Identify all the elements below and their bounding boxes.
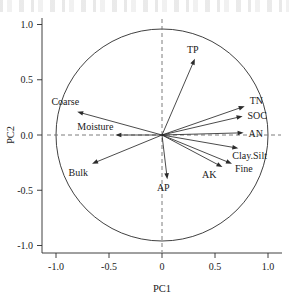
loading-vector-label-ap: AP — [157, 182, 170, 193]
plot-canvas: TPCoarseTNSOCANMoistureClay.SiltBulkAKFi… — [0, 0, 289, 301]
x-axis-title: PC1 — [153, 283, 171, 294]
y-tick-label: 0.0 — [21, 130, 34, 141]
loading-vector-line — [162, 117, 238, 135]
loading-vector-arrowhead — [238, 106, 244, 110]
loading-vector-arrowhead — [236, 115, 242, 119]
x-tick-label: -0.5 — [101, 261, 117, 272]
x-tick-label: 0.5 — [209, 261, 222, 272]
loading-vector-arrowhead — [190, 59, 194, 65]
loading-vector-line — [162, 135, 167, 175]
loading-vector-arrowhead — [92, 159, 98, 163]
y-tick-label: -0.5 — [17, 185, 33, 196]
loading-vector-label-ak: AK — [202, 169, 217, 180]
y-tick-label: -1.0 — [17, 240, 33, 251]
y-tick-label: 0.5 — [21, 74, 34, 85]
y-tick-label: 1.0 — [21, 19, 34, 30]
x-tick-label: -1.0 — [48, 261, 64, 272]
loading-vector-line — [96, 135, 162, 162]
loading-vector-label-an: AN — [249, 128, 263, 139]
loading-vectors — [77, 59, 244, 179]
loading-vector-label-coarse: Coarse — [51, 96, 79, 107]
loading-vector-arrowhead — [115, 133, 121, 138]
y-axis-ticks: 1.00.50.0-0.5-1.0 — [17, 19, 42, 251]
loading-vector-label-tp: TP — [187, 44, 199, 55]
loading-vector-label-moisture: Moisture — [77, 121, 114, 132]
loading-vector-label-tn: TN — [250, 95, 263, 106]
loading-vector-label-clay-silt: Clay.Silt — [232, 150, 267, 161]
x-axis-ticks: -1.0-0.500.51.0 — [48, 253, 274, 272]
loading-vector-line — [162, 135, 228, 162]
loading-vector-line — [162, 135, 234, 147]
loading-vector-arrowhead — [164, 173, 169, 179]
loading-vector-labels: TPCoarseTNSOCANMoistureClay.SiltBulkAKFi… — [51, 44, 267, 193]
loading-vector-arrowhead — [77, 111, 83, 115]
loading-vector-arrowhead — [232, 145, 238, 150]
loading-vector-label-bulk: Bulk — [69, 167, 88, 178]
loading-vector-arrowhead — [226, 159, 232, 163]
loading-vector-line — [162, 63, 193, 135]
loading-vector-arrowhead — [238, 131, 244, 136]
loading-vector-line — [162, 133, 239, 135]
x-tick-label: 0 — [160, 261, 165, 272]
loading-vector-line — [162, 108, 240, 135]
loading-vector-arrowhead — [216, 162, 222, 167]
y-axis-title: PC2 — [5, 126, 16, 144]
pca-biplot-figure: TPCoarseTNSOCANMoistureClay.SiltBulkAKFi… — [0, 0, 289, 301]
loading-vector-label-soc: SOC — [248, 110, 268, 121]
loading-vector-label-fine: Fine — [235, 163, 253, 174]
x-tick-label: 1.0 — [262, 261, 275, 272]
